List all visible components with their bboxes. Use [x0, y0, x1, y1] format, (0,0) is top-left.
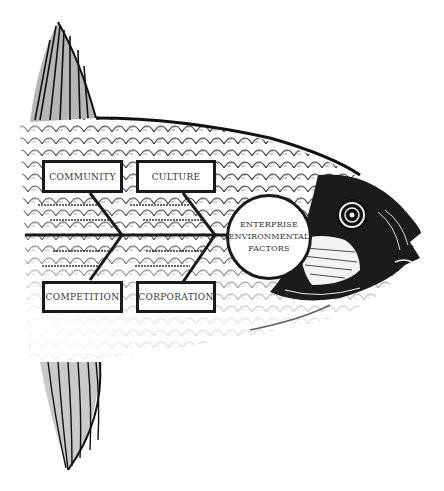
category-label: CORPORATION: [138, 292, 213, 302]
category-label: COMPETITION: [46, 292, 120, 302]
effect-circle: ENTERPRISE ENVIRONMENTAL FACTORS: [226, 194, 312, 280]
dorsal-fin-icon: [30, 22, 96, 122]
effect-line-1: ENTERPRISE: [240, 219, 298, 231]
effect-line-3: FACTORS: [248, 243, 290, 255]
pelvic-fin-icon: [40, 362, 102, 470]
category-box-corporation: CORPORATION: [136, 281, 216, 313]
fish-eye-icon: [336, 199, 368, 231]
category-label: CULTURE: [152, 172, 201, 182]
category-box-competition: COMPETITION: [42, 281, 123, 313]
fishbone-diagram: COMMUNITY CULTURE COMPETITION CORPORATIO…: [0, 0, 444, 491]
category-label: COMMUNITY: [49, 172, 115, 182]
fish-illustration: [0, 0, 444, 491]
effect-line-2: ENVIRONMENTAL: [229, 231, 310, 243]
category-box-culture: CULTURE: [136, 160, 216, 193]
category-box-community: COMMUNITY: [42, 160, 123, 193]
